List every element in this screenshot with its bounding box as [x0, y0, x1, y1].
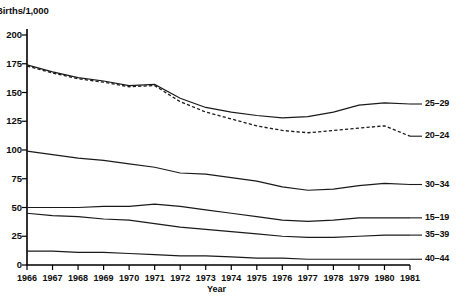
series-line-20-24	[27, 66, 410, 136]
y-tick-label: 125	[0, 116, 22, 126]
y-tick-label: 25	[0, 231, 22, 241]
series-line-25-29	[27, 65, 410, 118]
x-tick-label: 1974	[217, 274, 245, 283]
y-tick-label: 75	[0, 174, 22, 184]
y-tick-label: 50	[0, 203, 22, 213]
y-tick-label: 175	[0, 59, 22, 69]
x-tick-label: 1980	[370, 274, 398, 283]
x-tick-label: 1977	[294, 274, 322, 283]
birth-rate-line-chart: Births/1,000 Year 0255075100125150175200…	[0, 0, 466, 303]
x-tick-label: 1975	[243, 274, 271, 283]
x-tick-label: 1967	[39, 274, 67, 283]
series-label-15-19: 15–19	[425, 213, 449, 222]
axis-lines	[27, 29, 410, 265]
series-label-20-24: 20–24	[425, 131, 449, 140]
series-line-40-44	[27, 251, 410, 259]
x-tick-label: 1970	[115, 274, 143, 283]
x-tick-label: 1973	[192, 274, 220, 283]
y-tick-label: 100	[0, 145, 22, 155]
x-tick-label: 1976	[268, 274, 296, 283]
x-tick-label: 1981	[396, 274, 424, 283]
y-tick-label: 0	[0, 260, 22, 270]
x-axis-title: Year	[207, 285, 226, 294]
plot-area	[0, 0, 466, 303]
x-tick-label: 1978	[319, 274, 347, 283]
x-tick-label: 1972	[166, 274, 194, 283]
series-line-15-19	[27, 204, 410, 221]
x-tick-label: 1979	[345, 274, 373, 283]
x-tick-label: 1966	[13, 274, 41, 283]
series-label-35-39: 35–39	[425, 230, 449, 239]
series-label-40-44: 40–44	[425, 254, 449, 263]
x-tick-label: 1969	[90, 274, 118, 283]
x-tick-label: 1968	[64, 274, 92, 283]
series-label-30-34: 30–34	[425, 180, 449, 189]
series-label-25-29: 25–29	[425, 99, 449, 108]
y-tick-label: 150	[0, 88, 22, 98]
x-tick-label: 1971	[141, 274, 169, 283]
series-line-35-39	[27, 213, 410, 237]
series-line-30-34	[27, 151, 410, 190]
y-tick-label: 200	[0, 30, 22, 40]
